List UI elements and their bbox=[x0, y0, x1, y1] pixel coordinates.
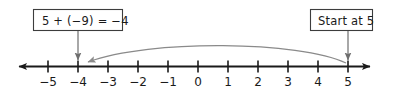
jump-arc-arrow bbox=[88, 46, 346, 63]
tick-label: −5 bbox=[39, 75, 57, 89]
tick-label: 1 bbox=[224, 75, 232, 89]
tick-label: 4 bbox=[314, 75, 322, 89]
tick-label: 0 bbox=[194, 75, 202, 89]
tick-label: −3 bbox=[99, 75, 117, 89]
tick-label: 2 bbox=[254, 75, 262, 89]
equation-callout: 5 + (−9) = −4 bbox=[34, 10, 129, 61]
equation-callout-label: 5 + (−9) = −4 bbox=[42, 14, 129, 28]
tick-label: −1 bbox=[159, 75, 177, 89]
number-line-figure: −5 −4 −3 −2 −1 0 1 2 3 4 5 5 + (−9) = −4… bbox=[0, 0, 394, 91]
tick-label: −4 bbox=[69, 75, 87, 89]
start-callout: Start at 5 bbox=[311, 10, 375, 61]
jump-arc-path bbox=[88, 46, 346, 63]
tick-labels: −5 −4 −3 −2 −1 0 1 2 3 4 5 bbox=[39, 75, 352, 89]
tick-label: −2 bbox=[129, 75, 147, 89]
tick-label: 5 bbox=[344, 75, 352, 89]
start-callout-label: Start at 5 bbox=[318, 14, 374, 28]
tick-label: 3 bbox=[284, 75, 292, 89]
